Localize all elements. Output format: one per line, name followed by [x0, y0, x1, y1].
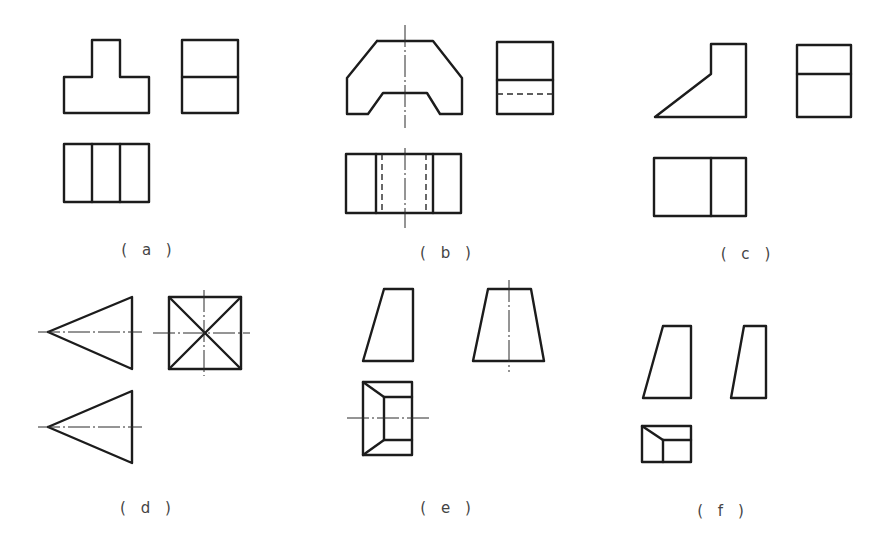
object-line [654, 158, 746, 216]
panel-a-side-view [182, 40, 238, 113]
object-line [363, 440, 384, 455]
object-line [363, 382, 384, 397]
panel-c-front-view [655, 44, 746, 117]
object-line [363, 289, 413, 361]
object-line [64, 144, 149, 202]
panel-e-front-view [363, 289, 413, 361]
panel-e [347, 280, 544, 455]
object-line [497, 42, 553, 114]
panel-c [654, 44, 851, 216]
object-line [655, 44, 746, 117]
object-line [731, 326, 766, 398]
label-d: ( d ) [120, 499, 176, 517]
panel-a-top-view [64, 144, 149, 202]
panel-f-side-view [731, 326, 766, 398]
label-a: ( a ) [121, 241, 176, 259]
object-line [48, 297, 132, 369]
orthographic-projections-figure [0, 0, 883, 550]
panel-a-front-view [64, 40, 149, 113]
panel-c-top-view [654, 158, 746, 216]
object-line [797, 45, 851, 117]
object-line [64, 40, 149, 113]
panel-b-top-view [346, 154, 461, 213]
object-line [643, 326, 691, 398]
object-line [346, 154, 461, 213]
panel-b-side-view [497, 42, 553, 114]
label-c: ( c ) [721, 245, 776, 263]
label-e: ( e ) [420, 499, 475, 517]
panel-d [38, 290, 250, 463]
panel-a [64, 40, 238, 202]
panel-c-side-view [797, 45, 851, 117]
label-b: ( b ) [420, 244, 476, 262]
panel-d-front-view [48, 297, 132, 369]
label-f: ( f ) [697, 502, 749, 520]
panel-f-top-view [642, 426, 691, 462]
object-line [642, 426, 663, 440]
panel-f [642, 326, 766, 462]
panel-f-front-view [643, 326, 691, 398]
panel-b [346, 25, 553, 228]
